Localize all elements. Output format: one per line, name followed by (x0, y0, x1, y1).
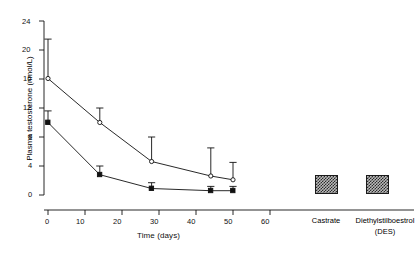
series-castrate-errorbars (44, 39, 236, 180)
legend-label-des: Diethylstilboestrol (350, 216, 419, 225)
series-des-errorbars (44, 111, 236, 191)
series-castrate-line (48, 79, 233, 180)
series-des-line (48, 123, 233, 191)
series-des-markers (46, 120, 235, 193)
legend-label-des-sub: (DES) (350, 227, 419, 236)
legend-swatch-castrate (315, 175, 338, 194)
legend-swatch-des (366, 175, 389, 194)
figure-panel: Plasma testosterone (nmol/L) 24 20 16 12… (0, 0, 419, 258)
legend-label-castrate: Castrate (300, 216, 352, 225)
series-castrate-markers (46, 76, 235, 181)
